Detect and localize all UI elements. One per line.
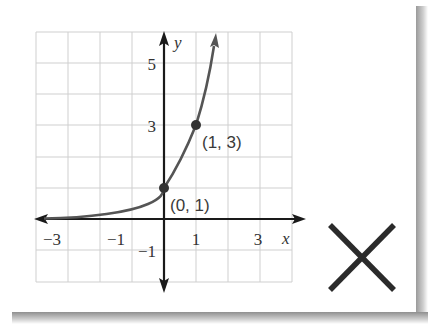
x-tick-1: 1 — [192, 230, 201, 249]
card-shadow-bottom — [12, 312, 428, 324]
y-axis-label: y — [172, 33, 182, 52]
x-axis-label: x — [281, 229, 290, 248]
y-tick-5: 5 — [148, 55, 157, 74]
card-shadow-right — [416, 6, 428, 324]
point-0-1 — [159, 183, 169, 193]
point-1-3 — [191, 120, 201, 130]
point-label-0-1: (0, 1) — [170, 196, 210, 215]
x-axis — [34, 214, 306, 224]
curve-arrow-icon — [210, 33, 219, 48]
x-tick-neg1: −1 — [107, 230, 125, 249]
exponential-curve — [44, 46, 214, 219]
y-tick-3: 3 — [148, 117, 157, 136]
y-axis — [159, 31, 169, 293]
x-tick-neg3: −3 — [43, 230, 61, 249]
exponential-graph: −3 −1 1 3 x 5 3 −1 y (0, 1) (1, 3) X — [0, 0, 438, 334]
point-label-1-3: (1, 3) — [202, 133, 242, 152]
cross-mark-icon — [330, 225, 394, 290]
figure-card: −3 −1 1 3 x 5 3 −1 y (0, 1) (1, 3) X — [0, 0, 416, 312]
x-tick-3: 3 — [254, 230, 263, 249]
y-tick-neg1: −1 — [138, 242, 156, 261]
